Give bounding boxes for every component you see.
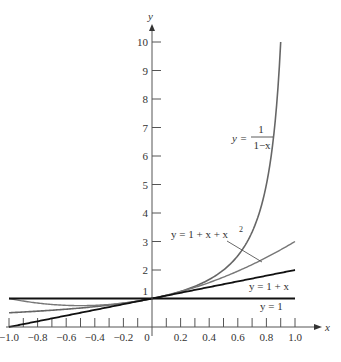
svg-text:1−x: 1−x	[253, 139, 271, 151]
y-axis-ticks: 12345678910	[137, 36, 161, 299]
x-tick-label: 1.0	[288, 331, 302, 343]
label-const: y = 1	[260, 300, 283, 312]
x-tick-label: 0.4	[202, 331, 216, 343]
y-tick-label: 9	[143, 65, 149, 77]
x-tick-label: −0.2	[113, 331, 133, 343]
y-tick-label: 3	[143, 236, 149, 248]
x-tick-label: −0.4	[85, 331, 105, 343]
x-tick-label: −0.8	[28, 331, 48, 343]
label-linear: y = 1 + x	[249, 280, 289, 292]
x-tick-label: −1.0	[0, 331, 19, 343]
y-tick-label: 2	[143, 264, 149, 276]
label-inverse: y = 1 1−x	[231, 123, 273, 151]
y-axis-label: y	[147, 10, 153, 22]
x-tick-label: 0.8	[260, 331, 274, 343]
svg-text:y =: y =	[231, 132, 247, 144]
y-tick-label: 8	[143, 93, 149, 105]
x-tick-label: 0.2	[174, 331, 188, 343]
y-tick-label: 7	[143, 122, 149, 134]
y-axis-arrow-icon	[149, 24, 155, 31]
x-axis-arrow-icon	[314, 324, 322, 330]
x-axis-ticks: −1.0−0.8−0.6−0.4−0.200.20.40.60.81.0	[0, 318, 302, 343]
svg-text:y = 1 + x + x: y = 1 + x + x	[171, 228, 229, 240]
x-tick-label: −0.6	[56, 331, 76, 343]
x-tick-label: 0.6	[231, 331, 245, 343]
x-axis-label: x	[324, 321, 330, 333]
svg-text:1: 1	[258, 123, 264, 135]
label-quadratic: y = 1 + x + x 2	[171, 225, 262, 262]
y-tick-label: 10	[137, 36, 149, 48]
y-tick-label: 4	[143, 207, 149, 219]
y-tick-label: 5	[143, 179, 149, 191]
y-tick-label: 1	[143, 285, 149, 297]
y-tick-label: 6	[143, 150, 149, 162]
chart: −1.0−0.8−0.6−0.4−0.200.20.40.60.81.0 123…	[0, 0, 341, 362]
svg-text:2: 2	[239, 225, 243, 234]
leader-line	[227, 241, 262, 262]
x-tick-label: 0	[144, 331, 150, 343]
